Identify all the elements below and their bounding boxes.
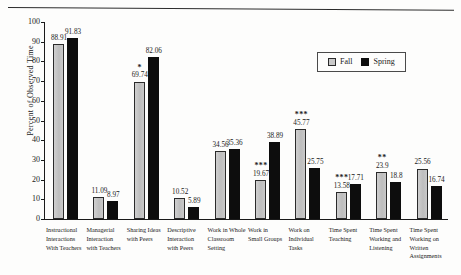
bar-value-label-fall: 69.74 [125,72,155,79]
bar-fall [336,192,347,219]
y-tick-label: 90 [20,38,40,46]
bar-spring [229,149,240,219]
bar-group: 11.098.97 [91,22,131,219]
x-axis-line [44,219,448,220]
x-category-label-line: Interactions [46,235,88,244]
significance-marker: *** [286,111,316,119]
y-tick-label: 20 [20,176,40,184]
x-category-label: Time SpentWorking onWrittenAssignments [410,226,452,261]
bar-spring [431,186,442,219]
x-category-label-line: Interaction [86,235,128,244]
bar-value-label-spring: 25.75 [300,159,330,166]
x-category-label-line: Managerial [86,226,128,235]
significance-marker: ** [367,154,397,162]
bar-group: 10.525.89 [172,22,212,219]
x-category-label-line: Sharing Ideas [127,226,169,235]
bar-value-label-spring: 82.06 [139,48,169,55]
y-axis-title: Percent of Observed Time [26,1,35,181]
bar-spring [188,207,199,219]
bar-chart-figure: Percent of Observed Time 100908070605040… [0,0,461,275]
legend-label-fall: Fall [340,58,352,66]
y-tick-label: 50 [20,117,40,125]
x-category-label-line: Time Spent [410,226,452,235]
bar-value-label-spring: 18.8 [381,173,411,180]
x-category-label: InstructionalInteractionsWith Teachers [46,226,88,252]
x-category-label-line: Time Spent [329,226,371,235]
x-category-label: Work in WholeClassroomSetting [208,226,250,252]
x-category-label-line: Work in Whole [208,226,250,235]
bar-spring [269,142,280,219]
significance-marker: *** [327,174,357,182]
x-category-label-line: Time Spent [369,226,411,235]
y-tick-label: 100 [20,18,40,26]
bar-value-label-fall: 25.56 [408,159,438,166]
bar-value-label-fall: 10.52 [165,189,195,196]
bar-group: 25.5616.74 [415,22,455,219]
x-category-label-line: Descriptive [167,226,209,235]
x-category-label-line: Written [410,244,452,253]
legend-swatch-fall-icon [328,58,336,66]
x-category-label-line: Tasks [288,244,330,253]
bar-value-label-fall: 45.77 [286,120,316,127]
x-category-label-line: With Teachers [46,244,88,253]
x-category-label-line: Assignments [410,252,452,261]
y-tick-label: 70 [20,77,40,85]
y-tick-mark [41,219,44,220]
significance-marker: * [125,64,155,72]
bar-fall [134,82,145,219]
legend-item-fall: Fall [328,58,352,66]
y-tick-label: 40 [20,136,40,144]
bar-spring [107,201,118,219]
x-category-label-line: Work in [248,226,290,235]
x-category-label: ManagerialInteractionwith Teachers [86,226,128,252]
x-category-label: Time SpentWorking andListening [369,226,411,252]
bar-value-label-spring: 38.89 [260,133,290,140]
legend-swatch-spring-icon [361,58,369,66]
bar-value-label-spring: 5.89 [179,198,209,205]
x-category-label-line: with Peers [167,244,209,253]
x-category-label-line: Listening [369,244,411,253]
bar-spring [67,38,78,219]
x-category-label-line: Instructional [46,226,88,235]
x-category-label: Sharing Ideaswith Peers [127,226,169,244]
x-category-label-line: with Teachers [86,244,128,253]
x-category-label: Work onIndividualTasks [288,226,330,252]
bar-value-label-fall: 23.9 [367,163,397,170]
bar-value-label-spring: 35.36 [220,140,250,147]
bar-fall [255,180,266,219]
bar-fall [295,129,306,219]
significance-marker: *** [246,162,276,170]
bar-fall [53,44,64,219]
x-category-label-line: with Peers [127,235,169,244]
bar-value-label-fall: 13.58 [327,183,357,190]
x-category-label-line: Individual [288,235,330,244]
x-category-label: Time SpentTeaching [329,226,371,244]
bar-value-label-spring: 8.97 [98,192,128,199]
x-category-label-line: Work on [288,226,330,235]
bar-value-label-spring: 91.83 [58,29,88,36]
x-category-label-line: Working and [369,235,411,244]
legend-item-spring: Spring [361,58,394,66]
bar-spring [148,57,159,219]
y-tick-label: 60 [20,97,40,105]
x-category-label-line: Small Groups [248,235,290,244]
bar-fall [215,151,226,219]
legend-label-spring: Spring [373,58,394,66]
bar-value-label-spring: 16.74 [422,177,452,184]
x-category-label: Work inSmall Groups [248,226,290,244]
bar-value-label-fall: 19.67 [246,171,276,178]
y-tick-label: 80 [20,57,40,65]
bar-spring [390,182,401,219]
x-category-label-line: Teaching [329,235,371,244]
x-category-label: DescriptiveInteractionwith Peers [167,226,209,252]
chart-legend: Fall Spring [317,52,406,72]
bar-fall [93,197,104,219]
bar-spring [309,168,320,219]
x-axis-category-labels: InstructionalInteractionsWith TeachersMa… [44,226,448,272]
bar-group: 34.5635.36 [213,22,253,219]
x-category-label-line: Classroom [208,235,250,244]
x-category-label-line: Interaction [167,235,209,244]
x-category-label-line: Setting [208,244,250,253]
y-tick-label: 30 [20,156,40,164]
y-tick-label: 10 [20,195,40,203]
